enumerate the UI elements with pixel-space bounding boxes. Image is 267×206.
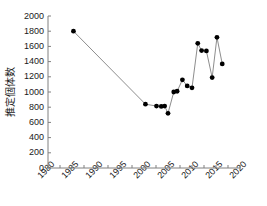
axis-lines	[48, 16, 240, 168]
axis-tick-marks	[48, 16, 240, 168]
chart-container: 推定個体数 0200400600800100012001400160018002…	[0, 0, 267, 206]
plot-area	[0, 0, 267, 206]
data-markers	[71, 29, 225, 116]
